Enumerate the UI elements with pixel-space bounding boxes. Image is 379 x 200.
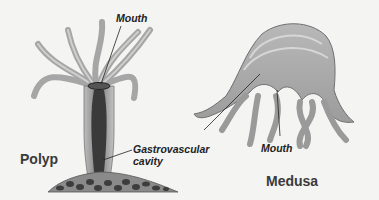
polyp-mouth-label: Mouth [116,12,148,24]
polyp-mouth [88,83,110,90]
cnidarian-body-forms-diagram: Mouth Gastrovascular cavity Polyp Mouth … [0,0,379,200]
medusa-mouth-label: Mouth [261,142,293,154]
gastrovascular-label-line2: cavity [133,155,163,167]
illustration [0,0,379,200]
gastrovascular-label-line1: Gastrovascular [133,143,209,155]
medusa-drawing [194,24,354,146]
medusa-title: Medusa [266,173,318,189]
medusa-tentacles [222,96,346,146]
polyp-title: Polyp [20,151,58,167]
